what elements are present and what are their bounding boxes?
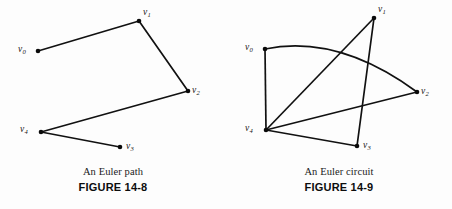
graph-vertex-v1 xyxy=(137,19,142,24)
graph-vertex-v3 xyxy=(355,144,360,149)
figure-panel-euler-circuit: v0v1v2v3v4 An Euler circuit FIGURE 14-9 xyxy=(226,0,452,209)
vertex-label-v2: v2 xyxy=(192,86,200,96)
graph-edge-v2-v4 xyxy=(41,91,188,132)
graph-vertex-v3 xyxy=(118,145,123,150)
vertex-label-v4: v4 xyxy=(20,125,28,135)
euler-circuit-graph xyxy=(226,0,452,165)
caption-figure-number-14-9: FIGURE 14-9 xyxy=(226,181,452,193)
graph-edge-v4-v2 xyxy=(266,92,417,130)
graph-vertex-v4 xyxy=(264,128,269,133)
graph-edge-v4-v3 xyxy=(41,132,120,147)
caption-title-euler-circuit: An Euler circuit xyxy=(226,166,452,177)
vertex-label-v1: v1 xyxy=(143,8,151,18)
vertex-label-v4: v4 xyxy=(245,124,253,134)
vertex-label-v3: v3 xyxy=(363,141,371,151)
graph-vertex-v0 xyxy=(263,47,268,52)
vertex-label-v0: v0 xyxy=(18,45,26,55)
euler-path-graph xyxy=(0,0,226,165)
graph-vertex-v4 xyxy=(39,130,44,135)
euler-figures-container: v0v1v2v3v4 An Euler path FIGURE 14-8 v0v… xyxy=(0,0,452,209)
graph-vertex-v0 xyxy=(36,49,41,54)
figure-caption-14-8: An Euler path FIGURE 14-8 xyxy=(0,166,226,193)
caption-figure-number-14-8: FIGURE 14-8 xyxy=(0,181,226,193)
graph-edge-v1-v2 xyxy=(139,21,188,91)
graph-edge-v4-v3 xyxy=(266,130,357,146)
caption-title-euler-path: An Euler path xyxy=(0,166,226,177)
graph-edge-v0-v4 xyxy=(265,49,266,130)
graph-vertex-v1 xyxy=(372,16,377,21)
vertex-label-v2: v2 xyxy=(421,87,429,97)
vertex-label-v0: v0 xyxy=(245,43,253,53)
graph-edge-v0-v1 xyxy=(38,21,139,51)
figure-caption-14-9: An Euler circuit FIGURE 14-9 xyxy=(226,166,452,193)
figure-panel-euler-path: v0v1v2v3v4 An Euler path FIGURE 14-8 xyxy=(0,0,226,209)
vertex-label-v1: v1 xyxy=(378,5,386,15)
graph-edge-v1-v3 xyxy=(357,18,374,146)
graph-vertex-v2 xyxy=(186,89,191,94)
graph-vertex-v2 xyxy=(415,90,420,95)
graph-edge-v4-v1 xyxy=(266,18,374,130)
vertex-label-v3: v3 xyxy=(126,142,134,152)
